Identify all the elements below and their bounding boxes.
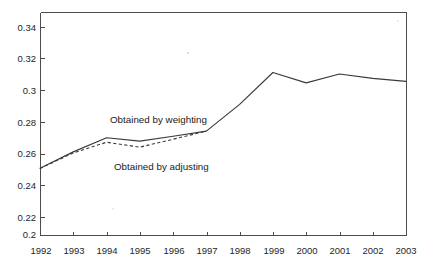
y-tick-label-0.28: 0.28 — [18, 117, 37, 128]
x-tick-label-2001: 2001 — [329, 245, 350, 256]
y-tick-label-0.3: 0.3 — [23, 85, 36, 96]
x-tick-label-1992: 1992 — [30, 245, 51, 256]
x-tick-label-2000: 2000 — [296, 245, 317, 256]
x-tick-label-1998: 1998 — [229, 245, 250, 256]
x-tick-label-2002: 2002 — [362, 245, 383, 256]
scan-speck-icon — [112, 208, 113, 209]
x-tick-label-2003: 2003 — [395, 245, 416, 256]
scan-speck-icon — [397, 20, 398, 21]
x-tick-label-1995: 1995 — [129, 245, 150, 256]
annotation-obtained-by-adjusting: Obtained by adjusting — [114, 161, 209, 172]
x-tick-label-1997: 1997 — [196, 245, 217, 256]
y-tick-label-0.26: 0.26 — [18, 148, 37, 159]
chart-canvas: 0.34 0.32 0.3 0.28 0.26 0.24 0.22 0.2 19… — [0, 0, 439, 265]
line-chart-figure: 0.34 0.32 0.3 0.28 0.26 0.24 0.22 0.2 19… — [0, 0, 439, 265]
y-tick-label-0.24: 0.24 — [18, 180, 37, 191]
chart-background — [0, 0, 439, 265]
x-tick-label-1993: 1993 — [63, 245, 84, 256]
x-tick-label-1999: 1999 — [263, 245, 284, 256]
y-tick-label-0.2: 0.2 — [23, 229, 36, 240]
y-tick-label-0.34: 0.34 — [18, 22, 37, 33]
x-tick-label-1996: 1996 — [163, 245, 184, 256]
scan-speck-icon — [187, 52, 189, 54]
y-tick-label-0.22: 0.22 — [18, 212, 37, 223]
y-tick-label-0.32: 0.32 — [18, 53, 37, 64]
annotation-obtained-by-weighting: Obtained by weighting — [110, 114, 207, 125]
x-tick-label-1994: 1994 — [96, 245, 117, 256]
